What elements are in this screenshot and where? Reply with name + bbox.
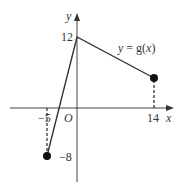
- function-label: y = g(x): [117, 41, 155, 55]
- origin-label: O: [64, 111, 73, 125]
- graph-canvas: y x O 12 −8 −5 14 y = g(x): [0, 0, 181, 186]
- tick-label-neg8: −8: [59, 150, 72, 164]
- endpoint-left: [43, 152, 51, 160]
- x-axis-label: x: [165, 111, 172, 125]
- y-axis-label: y: [65, 9, 72, 23]
- tick-label-14: 14: [147, 111, 159, 125]
- function-label-mid: = g(: [123, 41, 146, 55]
- tick-label-neg5: −5: [38, 111, 51, 125]
- endpoint-right: [150, 74, 158, 82]
- function-label-suffix: ): [151, 41, 155, 55]
- tick-label-12: 12: [61, 30, 73, 44]
- y-axis-arrow-icon: [74, 13, 80, 21]
